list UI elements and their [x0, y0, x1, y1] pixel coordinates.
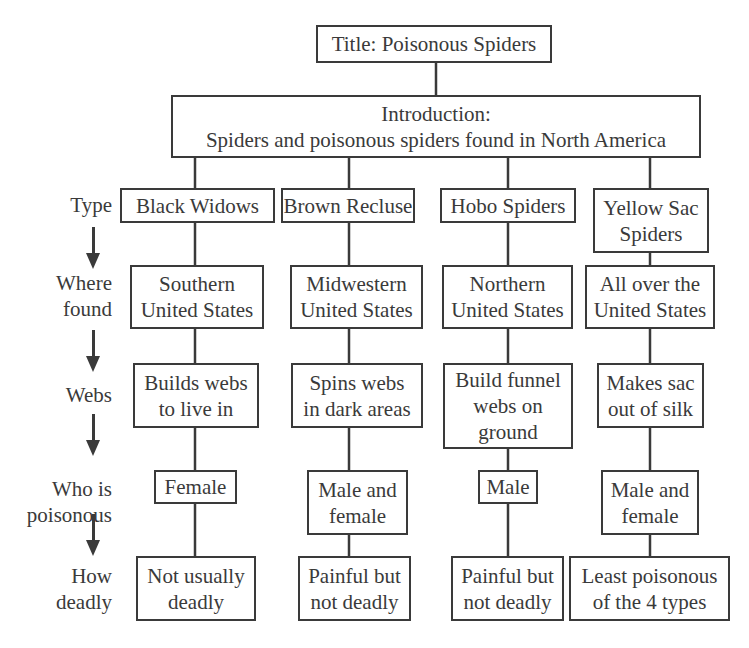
brown-recluse-webs-box: Spins webs in dark areas [291, 363, 423, 428]
cell-text: Male and female [611, 477, 690, 529]
cell-text: Male [486, 474, 529, 500]
brown-recluse-type-box: Brown Recluse [281, 188, 415, 223]
cell-text: Yellow Sac Spiders [603, 195, 698, 247]
black-widows-where-found-box: Southern United States [130, 265, 264, 329]
brown-recluse-where-found-box: Midwestern United States [290, 265, 423, 329]
hobo-spiders-webs-box: Build funnel webs on ground [443, 363, 573, 449]
cell-text: Midwestern United States [300, 271, 413, 323]
cell-text: Black Widows [136, 193, 259, 219]
cell-text: Makes sac out of silk [606, 370, 694, 422]
cell-text: Male and female [318, 477, 397, 529]
cell-text: Southern United States [141, 271, 254, 323]
cell-text: Northern United States [451, 271, 564, 323]
cell-text: Least poisonous of the 4 types [582, 563, 718, 615]
arrow-down-icon [86, 227, 100, 269]
arrow-down-icon [86, 330, 100, 372]
yellow-sac-spiders-webs-box: Makes sac out of silk [597, 363, 704, 428]
cell-text: Painful but not deadly [308, 563, 401, 615]
cell-text: Spins webs in dark areas [303, 370, 410, 422]
row-label-webs: Webs [66, 382, 112, 408]
cell-text: Build funnel webs on ground [455, 367, 561, 445]
cell-text: Painful but not deadly [461, 563, 554, 615]
black-widows-how-deadly-box: Not usually deadly [136, 556, 256, 621]
yellow-sac-spiders-type-box: Yellow Sac Spiders [593, 188, 709, 253]
black-widows-who-poisonous-box: Female [154, 470, 237, 504]
yellow-sac-spiders-who-poisonous-box: Male and female [601, 470, 699, 535]
brown-recluse-how-deadly-box: Painful but not deadly [298, 556, 411, 621]
title-box: Title: Poisonous Spiders [316, 25, 552, 63]
hobo-spiders-where-found-box: Northern United States [442, 265, 573, 329]
cell-text: All over the United States [594, 271, 707, 323]
hobo-spiders-type-box: Hobo Spiders [440, 188, 576, 223]
arrow-down-icon [86, 514, 100, 556]
brown-recluse-who-poisonous-box: Male and female [307, 470, 408, 535]
introduction-box: Introduction: Spiders and poisonous spid… [171, 95, 701, 158]
row-label-where-found: Where found [56, 270, 112, 322]
cell-text: Female [165, 474, 227, 500]
introduction-text: Introduction: Spiders and poisonous spid… [206, 101, 666, 153]
yellow-sac-spiders-where-found-box: All over the United States [585, 265, 715, 329]
row-label-how-deadly: How deadly [56, 563, 112, 615]
hobo-spiders-who-poisonous-box: Male [478, 470, 538, 504]
row-label-type: Type [70, 192, 112, 218]
cell-text: Brown Recluse [284, 193, 413, 219]
hobo-spiders-how-deadly-box: Painful but not deadly [451, 556, 564, 621]
cell-text: Hobo Spiders [451, 193, 566, 219]
black-widows-webs-box: Builds webs to live in [133, 363, 259, 428]
title-text: Title: Poisonous Spiders [332, 31, 537, 57]
cell-text: Not usually deadly [147, 563, 244, 615]
arrow-down-icon [86, 414, 100, 456]
cell-text: Builds webs to live in [144, 370, 247, 422]
yellow-sac-spiders-how-deadly-box: Least poisonous of the 4 types [569, 556, 730, 621]
black-widows-type-box: Black Widows [120, 188, 275, 223]
